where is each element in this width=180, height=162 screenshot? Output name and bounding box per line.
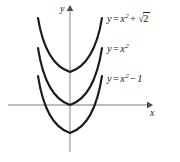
eq1-radical: √2 — [137, 12, 150, 25]
equation-label-x2-minus-1: y=x2−1 — [107, 74, 143, 85]
x-axis-label: x — [150, 108, 154, 118]
eq2-exponent: 2 — [125, 42, 129, 50]
eq3-operator: − — [129, 73, 137, 84]
y-axis-arrowhead — [67, 5, 74, 11]
eq3-equals: = — [112, 73, 120, 84]
y-axis-label: y — [60, 4, 64, 14]
eq2-equals: = — [112, 43, 120, 54]
equation-label-x2-plus-sqrt2: y=x2+√2 — [107, 12, 150, 25]
equation-label-x2: y=x2 — [107, 44, 129, 55]
eq3-constant: 1 — [137, 73, 143, 84]
plot-area — [0, 0, 180, 162]
eq1-equals: = — [112, 13, 120, 24]
eq1-radicand: 2 — [143, 12, 150, 24]
eq1-operator: + — [129, 13, 137, 24]
parabola-figure: y x y=x2+√2 y=x2 y=x2−1 — [0, 0, 180, 162]
